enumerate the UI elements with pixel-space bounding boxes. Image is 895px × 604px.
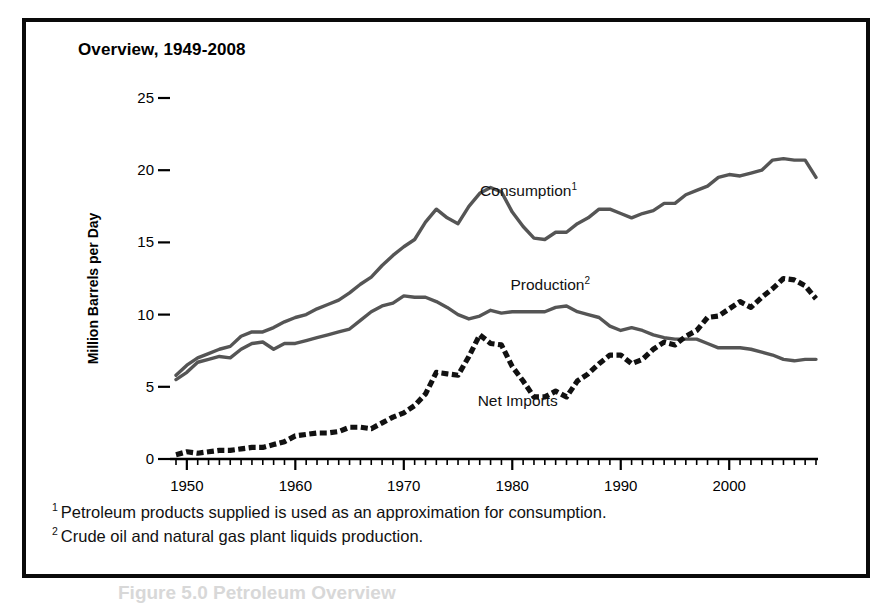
y-tick-label: 15: [137, 233, 154, 250]
y-axis-title-text: Million Barrels per Day: [85, 212, 101, 364]
x-tick-label: 1980: [496, 477, 529, 492]
y-tick-label: 0: [146, 450, 154, 467]
figure-frame: Overview, 1949-2008 0510152025 195019601…: [22, 18, 870, 578]
series-labels-group: Consumption1Production2Net Imports: [478, 181, 591, 408]
x-axis: 195019601970198019902000: [170, 459, 818, 492]
y-axis-ticks: 0510152025: [137, 89, 170, 467]
footnote-marker: 1: [52, 501, 58, 513]
y-tick-label: 20: [137, 161, 154, 178]
footnote-text: Crude oil and natural gas plant liquids …: [61, 527, 423, 545]
footnote-item: 1Petroleum products supplied is used as …: [52, 500, 842, 524]
footnote-item: 2Crude oil and natural gas plant liquids…: [52, 524, 842, 548]
footnote-text: Petroleum products supplied is used as a…: [61, 503, 607, 521]
footnote-marker: 2: [52, 525, 58, 537]
y-tick-label: 5: [146, 378, 154, 395]
x-tick-label: 1970: [387, 477, 420, 492]
series-label-production: Production2: [510, 275, 590, 293]
series-line-net-imports: [176, 279, 816, 455]
chart-series-group: [176, 159, 816, 455]
footnotes-block: 1Petroleum products supplied is used as …: [52, 500, 842, 548]
y-tick-label: 25: [137, 89, 154, 106]
x-tick-label: 1960: [279, 477, 312, 492]
series-line-production: [176, 296, 816, 380]
series-label-consumption: Consumption1: [480, 181, 577, 199]
x-tick-label: 1950: [170, 477, 203, 492]
x-tick-label: 2000: [713, 477, 746, 492]
plot-area: 0510152025 195019601970198019902000 Cons…: [26, 22, 874, 492]
x-tick-label: 1990: [604, 477, 637, 492]
figure-caption-partial: Figure 5.0 Petroleum Overview: [118, 582, 396, 604]
y-axis-title: Million Barrels per Day: [85, 212, 101, 364]
chart-canvas: 0510152025 195019601970198019902000 Cons…: [26, 22, 874, 492]
series-label-net-imports: Net Imports: [478, 392, 558, 409]
y-tick-label: 10: [137, 306, 154, 323]
